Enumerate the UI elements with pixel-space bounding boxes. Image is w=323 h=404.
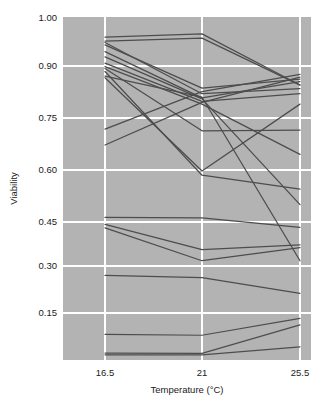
y-tick-label-1.00: 1.00	[39, 12, 58, 23]
mask-right	[311, 0, 323, 404]
x-axis-title: Temperature (°C)	[151, 384, 224, 395]
x-tick-label-21: 21	[197, 367, 208, 378]
y-tick-label-0.60: 0.60	[39, 164, 58, 175]
chart-canvas: 1.000.900.750.600.450.300.1516.52125.5Te…	[0, 0, 323, 404]
viability-temperature-chart: 1.000.900.750.600.450.300.1516.52125.5Te…	[0, 0, 323, 404]
y-tick-label-0.45: 0.45	[39, 216, 58, 227]
y-axis-title: Viability	[8, 172, 19, 205]
plot-panel	[63, 17, 311, 360]
x-tick-label-25.5: 25.5	[291, 367, 310, 378]
x-tick-label-16.5: 16.5	[96, 367, 115, 378]
y-tick-label-0.30: 0.30	[39, 260, 58, 271]
y-tick-label-0.75: 0.75	[39, 112, 58, 123]
y-tick-label-0.15: 0.15	[39, 307, 58, 318]
y-tick-label-0.90: 0.90	[39, 60, 58, 71]
